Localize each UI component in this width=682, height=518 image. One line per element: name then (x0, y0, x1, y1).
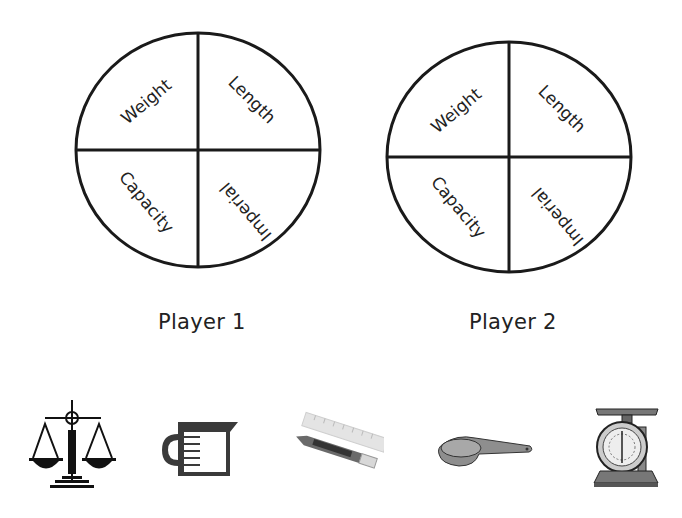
balance-scale-icon (25, 398, 120, 488)
player-1-label: Player 1 (158, 310, 246, 334)
player-2-label: Player 2 (469, 310, 557, 334)
kitchen-scale-icon (592, 405, 662, 490)
ruler-and-pencil-icon (292, 410, 384, 490)
spinner-player-1[interactable]: Weight Length Capacity Imperial (70, 28, 330, 278)
spinner-player-2[interactable]: Weight Length Capacity Imperial (380, 35, 642, 280)
measuring-jug-icon (158, 420, 240, 480)
measuring-scoop-icon (435, 430, 535, 480)
